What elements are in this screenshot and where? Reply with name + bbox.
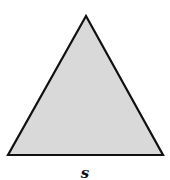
side-label: s: [81, 164, 90, 180]
triangle: [8, 16, 163, 155]
triangle-diagram: s: [0, 0, 170, 180]
